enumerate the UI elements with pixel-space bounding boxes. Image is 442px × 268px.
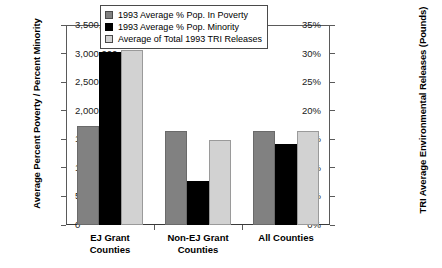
y-axis-left-tick	[61, 110, 66, 111]
y-axis-right-tick	[330, 196, 335, 197]
bar-group	[253, 25, 319, 225]
category-tick	[154, 225, 155, 230]
bar	[187, 181, 209, 225]
legend-swatch-icon	[105, 11, 113, 19]
legend-item: Average of Total 1993 TRI Releases	[105, 33, 262, 45]
y-axis-right-tick	[330, 110, 335, 111]
y-axis-right-tick	[330, 82, 335, 83]
chart-legend: 1993 Average % Pop. In Poverty1993 Avera…	[100, 5, 268, 49]
bar	[77, 126, 99, 225]
bar	[165, 131, 187, 225]
category-label: All Counties	[242, 232, 330, 244]
legend-swatch-icon	[105, 35, 113, 43]
bar	[99, 52, 121, 225]
y-axis-left-tick	[61, 25, 66, 26]
y-axis-right-tick	[330, 25, 335, 26]
y-axis-left-tick	[61, 225, 66, 226]
y-axis-right-tick	[330, 53, 335, 54]
legend-label: Average of Total 1993 TRI Releases	[118, 34, 262, 45]
legend-item: 1993 Average % Pop. Minority	[105, 21, 262, 33]
legend-item: 1993 Average % Pop. In Poverty	[105, 9, 262, 21]
legend-label: 1993 Average % Pop. Minority	[118, 22, 239, 33]
legend-label: 1993 Average % Pop. In Poverty	[118, 10, 248, 21]
category-label: EJ Grant Counties	[66, 232, 154, 256]
y-axis-right-tick	[330, 139, 335, 140]
y-axis-right-tick	[330, 225, 335, 226]
plot-area: 0%05%500,00010%1,000,00015%1,500,00020%2…	[66, 25, 330, 225]
bar	[121, 50, 143, 225]
bar-chart: Average Percent Poverty / Percent Minori…	[0, 0, 442, 268]
y-axis-left-tick	[61, 53, 66, 54]
y-axis-left-tick	[61, 196, 66, 197]
y-axis-right-title: TRI Average Environmental Releases (Poun…	[417, 14, 428, 214]
legend-swatch-icon	[105, 23, 113, 31]
y-axis-left-tick	[61, 167, 66, 168]
category-tick	[242, 225, 243, 230]
bar-group	[77, 25, 143, 225]
bar	[297, 131, 319, 225]
y-axis-left-tick	[61, 139, 66, 140]
bar	[209, 140, 231, 225]
y-axis-left-title: Average Percent Poverty / Percent Minori…	[31, 14, 42, 214]
y-axis-right-tick	[330, 167, 335, 168]
bar	[253, 131, 275, 225]
bar	[275, 144, 297, 225]
category-label: Non-EJ Grant Counties	[154, 232, 242, 256]
bar-group	[165, 25, 231, 225]
y-axis-left-tick	[61, 82, 66, 83]
